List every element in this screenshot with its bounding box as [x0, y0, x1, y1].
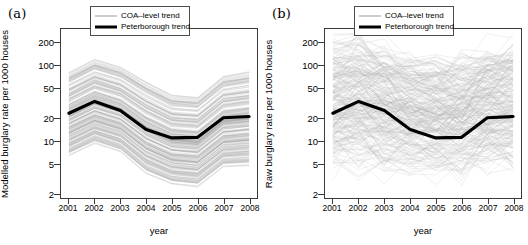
thick-line-icon — [359, 23, 381, 31]
panel-a-plot-area — [60, 28, 258, 199]
panel-a-coa-level-trend-bundle — [69, 59, 249, 187]
y-tick-mark — [54, 164, 60, 165]
panel-b-y-axis-label: Raw burglary rate per 1000 houses — [260, 0, 276, 245]
x-tick-label: 2002 — [85, 203, 104, 213]
y-tick-label: 50 — [307, 82, 318, 93]
panel-b-y-axis-label-text: Raw burglary rate per 1000 houses — [263, 40, 274, 188]
panel-b-series-canvas — [325, 29, 521, 198]
panel-b-x-axis-label: year — [324, 225, 522, 236]
x-tick-mark — [172, 199, 173, 204]
x-tick-mark — [436, 199, 437, 204]
y-tick-label: 50 — [43, 82, 54, 93]
y-tick-mark — [54, 194, 60, 195]
panel-modelled-rates: (a) Modelled rates Modelled burglary rat… — [0, 0, 264, 245]
x-tick-mark — [514, 199, 515, 204]
panel-a-series-canvas — [61, 29, 257, 198]
x-tick-mark — [94, 199, 95, 204]
panel-a-legend-label-peterborough: Peterborough trend — [121, 22, 190, 31]
x-tick-label: 2003 — [375, 203, 394, 213]
x-tick-label: 2004 — [137, 203, 156, 213]
y-tick-mark — [54, 88, 60, 89]
x-tick-label: 2001 — [323, 203, 342, 213]
x-tick-mark — [358, 199, 359, 204]
panel-b-legend: COA–level trend Peterborough trend — [354, 6, 454, 36]
x-tick-label: 2007 — [215, 203, 234, 213]
panel-b-legend-item-peterborough: Peterborough trend — [359, 21, 449, 32]
y-tick-mark — [54, 141, 60, 142]
y-tick-label: 10 — [307, 135, 318, 146]
x-tick-mark — [224, 199, 225, 204]
figure-two-panel-burglary-rates: (a) Modelled rates Modelled burglary rat… — [0, 0, 528, 245]
y-tick-mark — [54, 118, 60, 119]
x-tick-label: 2005 — [427, 203, 446, 213]
y-tick-label: 100 — [38, 59, 54, 70]
x-tick-mark — [250, 199, 251, 204]
y-tick-mark — [318, 88, 324, 89]
y-tick-mark — [318, 118, 324, 119]
x-tick-label: 2007 — [479, 203, 498, 213]
y-tick-mark — [318, 42, 324, 43]
x-tick-label: 2003 — [111, 203, 130, 213]
y-tick-label: 20 — [307, 112, 318, 123]
panel-b-legend-item-coa: COA–level trend — [359, 10, 449, 21]
thin-line-icon — [95, 12, 117, 20]
panel-a-y-axis-label-text: Modelled burglary rate per 1000 houses — [0, 30, 10, 198]
y-tick-mark — [318, 141, 324, 142]
x-tick-label: 2005 — [163, 203, 182, 213]
panel-a-x-axis-label: year — [60, 225, 258, 236]
panel-a-y-axis-label: Modelled burglary rate per 1000 houses — [0, 0, 12, 245]
x-tick-label: 2001 — [59, 203, 78, 213]
x-tick-mark — [384, 199, 385, 204]
x-tick-mark — [68, 199, 69, 204]
x-tick-label: 2008 — [241, 203, 260, 213]
panel-b-legend-label-coa: COA–level trend — [385, 11, 444, 20]
y-tick-mark — [54, 42, 60, 43]
x-tick-label: 2006 — [453, 203, 472, 213]
x-tick-mark — [332, 199, 333, 204]
panel-b-legend-label-peterborough: Peterborough trend — [385, 22, 454, 31]
panel-a-legend-label-coa: COA–level trend — [121, 11, 180, 20]
thin-line-icon — [359, 12, 381, 20]
y-tick-mark — [318, 65, 324, 66]
y-tick-mark — [54, 65, 60, 66]
y-tick-label: 100 — [302, 59, 318, 70]
x-tick-mark — [488, 199, 489, 204]
panel-b-plot-area — [324, 28, 522, 199]
panel-a-legend: COA–level trend Peterborough trend — [90, 6, 190, 36]
x-tick-mark — [120, 199, 121, 204]
panel-a-legend-item-peterborough: Peterborough trend — [95, 21, 185, 32]
x-tick-label: 2002 — [349, 203, 368, 213]
x-tick-label: 2008 — [505, 203, 524, 213]
x-tick-mark — [198, 199, 199, 204]
y-tick-label: 200 — [302, 36, 318, 47]
thick-line-icon — [95, 23, 117, 31]
y-tick-label: 200 — [38, 36, 54, 47]
x-tick-mark — [146, 199, 147, 204]
panel-raw-rates: (b) Raw rates Raw burglary rate per 1000… — [264, 0, 528, 245]
y-tick-label: 20 — [43, 112, 54, 123]
panel-b-coa-level-trend-bundle — [333, 34, 513, 186]
x-tick-label: 2004 — [401, 203, 420, 213]
y-tick-mark — [318, 194, 324, 195]
x-tick-mark — [462, 199, 463, 204]
y-tick-mark — [318, 164, 324, 165]
x-tick-mark — [410, 199, 411, 204]
y-tick-label: 10 — [43, 135, 54, 146]
panel-a-legend-item-coa: COA–level trend — [95, 10, 185, 21]
x-tick-label: 2006 — [189, 203, 208, 213]
